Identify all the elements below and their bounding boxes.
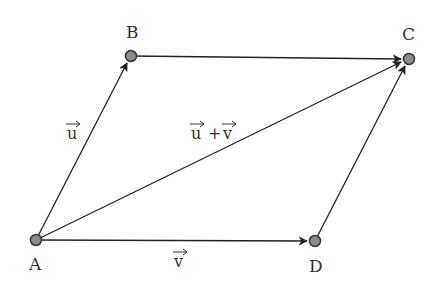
diagram-canvas: B C C A D u v u + v [0, 0, 441, 283]
vector-v-text: v [173, 252, 183, 271]
vector-sum-arrow [36, 62, 401, 240]
vector-u-arrow [36, 63, 127, 240]
vector-v-arrow [36, 240, 307, 241]
label-c-visible: C [402, 24, 415, 44]
edge-dc-arrow [315, 66, 405, 241]
sum-v-text: v [222, 124, 232, 143]
vector-v-label: v [173, 249, 187, 271]
label-b: B [126, 22, 139, 42]
vector-diagram: B C C A D u v u + v [0, 0, 441, 283]
point-d [310, 236, 321, 247]
vector-sum-label: u + v [190, 121, 236, 143]
point-c [404, 54, 415, 65]
vector-u-text: u [67, 124, 77, 143]
sum-plus-text: + [208, 124, 221, 143]
point-b [126, 51, 137, 62]
label-d: D [309, 256, 323, 276]
point-a [31, 235, 42, 246]
vector-u-label: u [66, 121, 80, 143]
label-a: A [28, 254, 42, 274]
sum-u-text: u [191, 124, 201, 143]
edge-bc-arrow [131, 56, 401, 59]
